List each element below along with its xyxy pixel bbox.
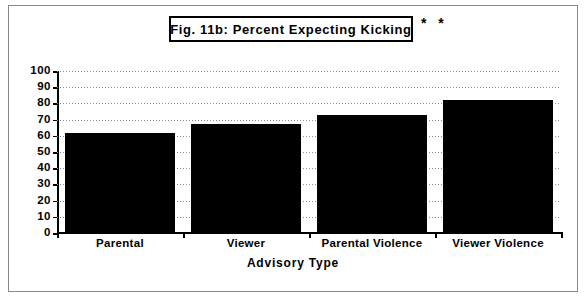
bar-viewer-violence <box>443 100 553 233</box>
x-tick-mark-0 <box>57 233 59 238</box>
page-title: Fig. 11b: Percent Expecting Kicking <box>170 22 411 37</box>
figure-title-box: Fig. 11b: Percent Expecting Kicking <box>169 16 413 42</box>
x-tick-label-parental-violence: Parental Violence <box>309 237 435 249</box>
x-tick-mark-4 <box>561 233 563 238</box>
x-axis-category-labels: ParentalViewerParental ViolenceViewer Vi… <box>57 237 561 255</box>
figure-frame: Fig. 11b: Percent Expecting Kicking * * … <box>8 5 578 292</box>
bar-parental-violence <box>317 115 427 233</box>
figure-title-row: Fig. 11b: Percent Expecting Kicking * * <box>9 16 577 46</box>
bar-parental <box>65 133 175 233</box>
bar-series <box>57 71 561 233</box>
bar-viewer <box>191 124 301 233</box>
x-axis-title: Advisory Type <box>9 256 577 270</box>
x-tick-mark-1 <box>183 233 185 238</box>
x-tick-label-viewer: Viewer <box>183 237 309 249</box>
significance-asterisks: * * <box>421 15 448 31</box>
x-tick-label-parental: Parental <box>57 237 183 249</box>
x-tick-label-viewer-violence: Viewer Violence <box>435 237 561 249</box>
plot-area <box>57 71 561 233</box>
x-tick-mark-2 <box>309 233 311 238</box>
x-tick-mark-3 <box>435 233 437 238</box>
